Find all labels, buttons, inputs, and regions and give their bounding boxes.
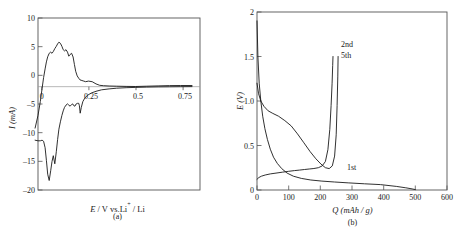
panel-a-ytick-minus20: –20: [22, 186, 35, 195]
panel-b-svg: 2 1.5 1.0 0.5 0 0 100 200 300 400 500 60…: [235, 0, 470, 237]
panel-b-xtick-0: 0: [255, 193, 259, 202]
panel-b-label-5th: 5th: [341, 51, 351, 60]
panel-a-plot-frame: [38, 18, 200, 190]
panel-a-ytick-minus15: –15: [22, 157, 35, 166]
panel-a-ytick-minus10: –10: [22, 129, 35, 138]
panel-a-curve-cathodic: [35, 87, 192, 181]
panel-b-label-1st: 1st: [347, 163, 357, 172]
panel-b-xtick-300: 300: [346, 193, 358, 202]
panel-b-xlabel-text: Q (mAh / g): [332, 205, 372, 215]
panel-b-x-ticks: [257, 186, 447, 191]
panel-b-ytick-2: 2: [250, 8, 254, 17]
panel-b-curve-1st: [257, 21, 415, 190]
panel-b-voltage-profiles: 2 1.5 1.0 0.5 0 0 100 200 300 400 500 60…: [235, 0, 470, 237]
panel-a-ytick-10: 10: [27, 14, 35, 23]
figure-container: 10 5 0 –5 –10 –15 –20 0 0.25 0.5 0.75 I …: [0, 0, 470, 237]
panel-a-ytick-minus5: –5: [26, 100, 35, 109]
panel-b-curve-2nd: [257, 57, 338, 169]
panel-a-caption: (a): [0, 212, 235, 221]
panel-b-y-axis-title: E (V): [235, 92, 245, 111]
panel-b-xtick-400: 400: [378, 193, 390, 202]
panel-a-xtick-075: 0.75: [178, 92, 192, 101]
panel-b-ytick-10: 1.0: [244, 97, 254, 106]
panel-b-xtick-600: 600: [441, 193, 453, 202]
panel-b-ytick-15: 1.5: [244, 53, 254, 62]
panel-a-ytick-5: 5: [31, 43, 35, 52]
panel-b-caption: (b): [235, 218, 470, 227]
panel-a-ytick-0: 0: [31, 71, 35, 80]
panel-b-xtick-100: 100: [283, 193, 295, 202]
panel-b-curve-5th: [257, 57, 333, 180]
panel-b-ytick-05: 0.5: [244, 142, 254, 151]
panel-b-xtick-500: 500: [409, 193, 421, 202]
panel-a-y-axis-title: I (mA): [7, 107, 17, 130]
panel-a-curve-anodic: [35, 42, 192, 128]
panel-a-cyclic-voltammogram: 10 5 0 –5 –10 –15 –20 0 0.25 0.5 0.75 I …: [0, 0, 235, 237]
panel-a-xtick-05: 0.5: [133, 92, 143, 101]
panel-b-xtick-200: 200: [314, 193, 326, 202]
panel-b-label-2nd: 2nd: [341, 40, 353, 49]
panel-b-ytick-0: 0: [250, 186, 254, 195]
panel-b-x-axis-title: Q (mAh / g): [235, 205, 470, 215]
